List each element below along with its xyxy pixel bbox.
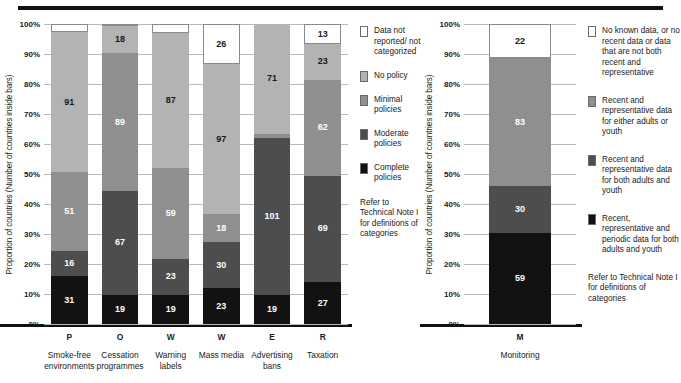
bar-segment[interactable]: 18 xyxy=(102,26,138,54)
legend-swatch-icon xyxy=(588,155,596,166)
bar-segment[interactable]: 5 xyxy=(51,24,87,32)
bar-segment[interactable]: 59 xyxy=(489,233,551,324)
segment-value: 30 xyxy=(515,205,525,214)
legend-item[interactable]: Recent and representative data for both … xyxy=(588,155,681,197)
bar-smoke-free-environments[interactable]: 311651915 xyxy=(51,24,87,324)
bar-segment[interactable]: 23 xyxy=(304,44,340,80)
bar-segment[interactable]: 97 xyxy=(203,64,239,214)
bar-warning-labels[interactable]: 192359876 xyxy=(152,24,188,324)
segment-value: 71 xyxy=(267,74,277,83)
legend-item[interactable]: Recent, representative and periodic data… xyxy=(588,214,681,256)
bar-mass-media[interactable]: 2330189726 xyxy=(203,24,239,324)
mpower-policies-chart: Proportion of countries (Number of count… xyxy=(0,14,352,383)
bar-segment[interactable]: 89 xyxy=(102,53,138,191)
y-axis-tick: 50% xyxy=(24,170,40,179)
bar-segment[interactable]: 62 xyxy=(304,80,340,176)
bar-segment[interactable]: 23 xyxy=(152,259,188,295)
legend-note: Refer to Technical Note I for definition… xyxy=(360,198,422,240)
y-axis-tick: 0% xyxy=(448,320,460,329)
segment-value: 91 xyxy=(64,98,74,107)
y-axis-tick: 20% xyxy=(444,260,460,269)
y-axis-tick: 60% xyxy=(444,140,460,149)
y-axis-tick: 40% xyxy=(24,200,40,209)
legend-item[interactable]: Data not reported/ not categorized xyxy=(360,26,422,58)
category-name: Warning labels xyxy=(145,350,196,372)
bar-advertising-bans[interactable]: 19101371 xyxy=(254,24,290,324)
bar-segment[interactable]: 30 xyxy=(489,186,551,232)
y-axis-tick: 70% xyxy=(24,110,40,119)
category-letter: R xyxy=(297,332,348,343)
bar-segment[interactable]: 51 xyxy=(51,172,87,251)
segment-value: 67 xyxy=(115,238,125,247)
segment-value: 18 xyxy=(216,224,226,233)
segment-value: 30 xyxy=(216,261,226,270)
bar-segment[interactable]: 18 xyxy=(203,214,239,242)
y-axis-tick: 10% xyxy=(444,290,460,299)
bar-segment[interactable]: 16 xyxy=(51,251,87,276)
plot-area: 100%90%80%70%60%50%40%30%20%10%0%5930832… xyxy=(464,24,576,324)
x-axis-category-mass-media: WMass media xyxy=(196,332,247,361)
segment-value: 13 xyxy=(318,30,328,39)
category-letter: O xyxy=(95,332,146,343)
bar-segment[interactable]: 22 xyxy=(489,24,551,58)
segment-value: 89 xyxy=(115,118,125,127)
x-axis-category-smoke-free-environments: PSmoke-free environments xyxy=(44,332,95,372)
segment-value: 59 xyxy=(166,209,176,218)
legend-item[interactable]: No known data, or no recent data or data… xyxy=(588,26,681,79)
legend-item[interactable]: Minimal policies xyxy=(360,95,422,116)
bar-segment[interactable]: 59 xyxy=(152,168,188,259)
bar-segment[interactable]: 3 xyxy=(254,134,290,139)
segment-value: 87 xyxy=(166,96,176,105)
bar-segment[interactable]: 101 xyxy=(254,138,290,294)
bar-monitoring[interactable]: 59308322 xyxy=(489,24,551,324)
bar-segment[interactable]: 31 xyxy=(51,276,87,324)
bar-segment[interactable]: 67 xyxy=(102,191,138,295)
y-axis-label: Proportion of countries (Number of count… xyxy=(422,14,436,334)
legend-label: Data not reported/ not categorized xyxy=(374,26,422,58)
category-name: Monitoring xyxy=(464,350,576,361)
y-axis-tick: 90% xyxy=(444,50,460,59)
legend-swatch-icon xyxy=(360,95,368,106)
bar-segment[interactable]: 87 xyxy=(152,33,188,168)
gridline xyxy=(464,324,576,325)
bar-segment[interactable]: 1 xyxy=(102,24,138,26)
bar-segment[interactable]: 23 xyxy=(203,288,239,324)
bar-segment[interactable]: 6 xyxy=(152,24,188,33)
bar-segment[interactable]: 71 xyxy=(254,24,290,134)
bar-segment[interactable]: 19 xyxy=(254,295,290,324)
bar-segment[interactable]: 19 xyxy=(152,295,188,324)
segment-value: 19 xyxy=(115,305,125,314)
bar-segment[interactable]: 83 xyxy=(489,58,551,186)
bar-segment[interactable]: 69 xyxy=(304,176,340,283)
bar-segment[interactable]: 13 xyxy=(304,24,340,44)
legend-item[interactable]: Recent and representative data for eithe… xyxy=(588,96,681,138)
bar-segment[interactable]: 19 xyxy=(102,295,138,324)
segment-value: 101 xyxy=(264,212,279,221)
plot-area: 100%90%80%70%60%50%40%30%20%10%0%3116519… xyxy=(44,24,348,324)
y-axis-tick: 100% xyxy=(440,20,460,29)
segment-value: 23 xyxy=(216,302,226,311)
bar-segment[interactable]: 91 xyxy=(51,32,87,173)
category-name: Smoke-free environments xyxy=(44,350,95,372)
x-axis-category-advertising-bans: EAdvertising bans xyxy=(247,332,298,372)
bar-segment[interactable]: 26 xyxy=(203,24,239,64)
gridline xyxy=(44,84,348,85)
category-letter: P xyxy=(44,332,95,343)
legend-swatch-icon xyxy=(360,71,368,82)
bar-taxation[interactable]: 2769622313 xyxy=(304,24,340,324)
legend-item[interactable]: Complete policies xyxy=(360,163,422,184)
segment-value: 18 xyxy=(115,35,125,44)
legend-note: Refer to Technical Note I for definition… xyxy=(588,273,681,305)
legend-item[interactable]: No policy xyxy=(360,71,422,82)
gridline xyxy=(44,204,348,205)
x-axis-categories: MMonitoring xyxy=(464,332,576,382)
legend-item[interactable]: Moderate policies xyxy=(360,129,422,150)
category-name: Advertising bans xyxy=(247,350,298,372)
legend-swatch-icon xyxy=(360,129,368,140)
bar-cessation-programmes[interactable]: 196789181 xyxy=(102,24,138,324)
bar-segment[interactable]: 30 xyxy=(203,242,239,288)
gridline xyxy=(44,114,348,115)
monitoring-legend: No known data, or no recent data or data… xyxy=(588,26,681,304)
segment-value: 27 xyxy=(318,299,328,308)
bar-segment[interactable]: 27 xyxy=(304,282,340,324)
